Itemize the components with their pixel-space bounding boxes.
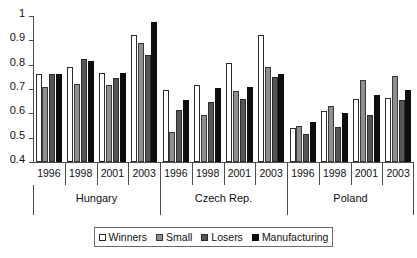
bar-losers	[113, 78, 119, 162]
bar-winners	[385, 98, 391, 162]
country-separator	[287, 185, 288, 215]
legend-item-small[interactable]: Small	[156, 231, 192, 243]
bar-losers	[81, 59, 87, 162]
bar-losers	[303, 134, 309, 162]
bar-losers	[335, 127, 341, 162]
bar-losers	[399, 100, 405, 162]
y-axis-tick-label: 0.9	[10, 32, 25, 43]
x-axis-country-band: HungaryCzech Rep.Poland	[33, 185, 414, 215]
bar-small	[392, 76, 398, 162]
legend-item-losers[interactable]: Losers	[201, 231, 243, 243]
bar-losers	[367, 115, 373, 162]
country-separator	[160, 185, 161, 215]
x-axis-separator	[351, 163, 352, 185]
x-axis-separator	[160, 163, 161, 185]
bar-losers	[208, 102, 214, 162]
x-axis-year-label: 2001	[351, 167, 383, 179]
x-axis-country-label: Hungary	[33, 192, 160, 205]
x-axis-country-label: Czech Rep.	[160, 192, 287, 205]
bar-manufacturing	[56, 74, 62, 162]
x-axis-year-label: 1996	[160, 167, 192, 179]
legend-swatch-icon	[99, 234, 106, 241]
y-axis-tick-label: 0.6	[10, 105, 25, 116]
bar-losers	[176, 110, 182, 162]
bar-small	[138, 43, 144, 162]
x-axis-year-label: 2003	[255, 167, 287, 179]
country-separator	[33, 185, 34, 215]
x-axis-year-label: 2001	[224, 167, 256, 179]
bar-manufacturing	[405, 90, 411, 162]
bar-losers	[272, 77, 278, 162]
legend-label: Manufacturing	[262, 231, 329, 243]
legend-item-winners[interactable]: Winners	[99, 231, 148, 243]
bar-winners	[194, 85, 200, 162]
y-axis-tick-label: 0.5	[10, 130, 25, 141]
x-axis-year-label: 2003	[128, 167, 160, 179]
x-axis-separator	[319, 163, 320, 185]
year-group	[160, 16, 192, 162]
legend-swatch-icon	[156, 234, 163, 241]
country-block	[33, 16, 160, 162]
year-group	[287, 16, 319, 162]
year-group	[319, 16, 351, 162]
bar-manufacturing	[278, 74, 284, 162]
bar-small	[74, 84, 80, 162]
year-group	[65, 16, 97, 162]
legend-label: Small	[166, 231, 192, 243]
bar-small	[296, 126, 302, 163]
bar-winners	[353, 99, 359, 162]
year-group	[351, 16, 383, 162]
bar-winners	[67, 67, 73, 162]
legend-item-manufacturing[interactable]: Manufacturing	[252, 231, 329, 243]
bar-manufacturing	[215, 88, 221, 162]
bar-winners	[290, 128, 296, 162]
chart-legend: WinnersSmallLosersManufacturing	[94, 227, 333, 247]
legend-swatch-icon	[252, 234, 259, 241]
x-axis-separator	[224, 163, 225, 185]
x-axis-separator	[413, 163, 414, 185]
bar-losers	[240, 99, 246, 162]
year-group	[224, 16, 256, 162]
x-axis-separator	[255, 163, 256, 185]
bar-manufacturing	[120, 73, 126, 162]
bar-small	[360, 80, 366, 162]
bar-winners	[226, 63, 232, 162]
bar-manufacturing	[247, 87, 253, 162]
x-axis-year-label: 1996	[287, 167, 319, 179]
y-axis-tick-label: 0.4	[10, 154, 25, 165]
bar-manufacturing	[342, 113, 348, 162]
year-group	[255, 16, 287, 162]
bar-winners	[163, 90, 169, 162]
legend-label: Winners	[109, 231, 148, 243]
x-axis-year-label: 2001	[97, 167, 129, 179]
bar-losers	[49, 74, 55, 162]
bar-small	[328, 106, 334, 162]
x-axis-year-band: 1996199820012003199619982001200319961998…	[33, 163, 414, 185]
year-group	[192, 16, 224, 162]
x-axis-separator	[65, 163, 66, 185]
bar-chart: 10.90.80.70.60.50.4 19961998200120031996…	[0, 0, 417, 258]
x-axis-separator	[287, 163, 288, 185]
bar-losers	[145, 55, 151, 162]
bar-manufacturing	[151, 22, 157, 162]
legend-swatch-icon	[201, 234, 208, 241]
bar-manufacturing	[310, 122, 316, 162]
bar-small	[265, 67, 271, 162]
y-axis-tick-label: 0.7	[10, 81, 25, 92]
bar-small	[201, 115, 207, 162]
bar-small	[169, 132, 175, 162]
year-group	[382, 16, 414, 162]
bar-small	[106, 85, 112, 162]
bar-manufacturing	[374, 95, 380, 162]
country-block	[160, 16, 287, 162]
bar-manufacturing	[183, 100, 189, 162]
x-axis-year-label: 1998	[319, 167, 351, 179]
x-axis-country-label: Poland	[287, 192, 414, 205]
x-axis-year-label: 2003	[382, 167, 414, 179]
bar-small	[233, 91, 239, 162]
year-group	[128, 16, 160, 162]
bar-small	[42, 87, 48, 162]
year-group	[97, 16, 129, 162]
x-axis-separator	[128, 163, 129, 185]
bar-winners	[258, 35, 264, 162]
